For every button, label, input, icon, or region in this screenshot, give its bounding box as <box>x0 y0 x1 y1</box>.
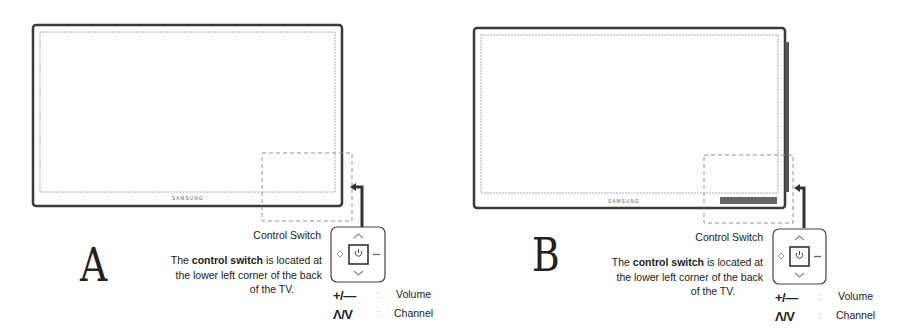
arrow-head <box>794 184 800 192</box>
panel-letter: B <box>532 228 560 282</box>
control-switch-pad-icon <box>331 227 385 282</box>
control-switch-label: Control Switch <box>253 229 321 241</box>
panel-b: SAMSUNG B Control Switch The control swi… <box>458 0 915 334</box>
separator: : <box>819 290 822 302</box>
channel-symbol: Λ/V <box>333 307 352 322</box>
control-switch-highlight <box>704 155 793 223</box>
bottom-stand-bar <box>720 197 777 204</box>
desc-last-line: of the TV. <box>603 284 763 299</box>
arrow-head <box>350 183 356 191</box>
control-switch-highlight <box>262 153 352 221</box>
desc-prefix: The <box>612 256 633 268</box>
channel-label: Channel <box>836 309 875 321</box>
volume-label: Volume <box>838 290 873 302</box>
brand-logo: SAMSUNG <box>172 196 204 201</box>
brand-logo: SAMSUNG <box>608 199 640 204</box>
side-stand <box>785 42 789 192</box>
panel-a: SAMSUNG A Control Switch The control swi… <box>0 0 458 334</box>
volume-label: Volume <box>396 288 431 300</box>
desc-prefix: The <box>171 254 192 266</box>
tv-frame <box>474 28 785 208</box>
panel-letter: A <box>80 238 107 292</box>
desc-bold: control switch <box>192 254 263 266</box>
tv-screen <box>40 32 335 192</box>
desc-last-line: of the TV. <box>162 282 322 297</box>
tv-frame <box>33 25 342 206</box>
leader-line <box>798 188 804 228</box>
separator: : <box>377 288 380 300</box>
control-switch-label: Control Switch <box>695 231 763 243</box>
volume-symbol: +/— <box>775 290 798 305</box>
channel-label: Channel <box>394 307 433 319</box>
separator: : <box>377 307 380 319</box>
separator: : <box>819 309 822 321</box>
control-switch-description: The control switch is located at the low… <box>162 253 322 297</box>
volume-symbol: +/— <box>333 288 356 303</box>
control-switch-description: The control switch is located at the low… <box>603 255 763 299</box>
leader-line <box>354 187 362 227</box>
tv-screen <box>481 35 778 193</box>
desc-bold: control switch <box>633 256 704 268</box>
channel-symbol: Λ/V <box>775 309 794 324</box>
control-switch-pad-icon <box>773 229 826 284</box>
